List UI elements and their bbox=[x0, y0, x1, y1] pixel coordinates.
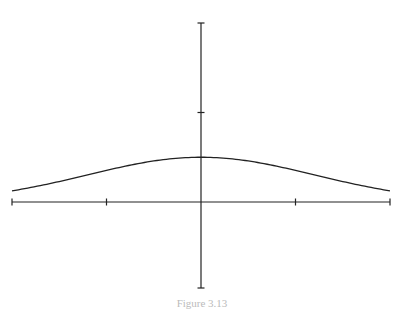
figure-caption: Figure 3.13 bbox=[0, 297, 404, 309]
